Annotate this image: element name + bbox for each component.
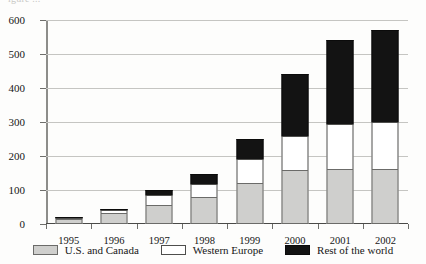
y-axis-label: 500 xyxy=(0,48,25,60)
gridline xyxy=(46,88,408,89)
bar-segment-western-europe xyxy=(372,122,399,169)
bar-segment-western-europe xyxy=(236,159,263,183)
x-axis-tick xyxy=(137,224,138,229)
x-axis-tick xyxy=(46,224,47,229)
bar-segment-u-s-and-canada xyxy=(55,219,82,224)
x-axis-tick xyxy=(272,224,273,229)
y-axis-label: 0 xyxy=(0,218,25,230)
bar-segment-western-europe xyxy=(281,136,308,170)
y-axis-label: 600 xyxy=(0,14,25,26)
bar-segment-western-europe xyxy=(146,195,173,205)
legend-item-western-europe: Western Europe xyxy=(161,244,263,256)
bar-segment-u-s-and-canada xyxy=(372,169,399,224)
gridline xyxy=(46,122,408,123)
bar-1996 xyxy=(100,209,127,224)
legend-item-rest-of-the-world: Rest of the world xyxy=(285,244,393,256)
legend-swatch-rest-of-the-world xyxy=(285,245,310,255)
y-axis-tick xyxy=(40,88,46,89)
y-axis-tick xyxy=(40,122,46,123)
x-axis-tick xyxy=(227,224,228,229)
x-axis-tick xyxy=(91,224,92,229)
bar-1998 xyxy=(191,174,218,224)
bar-segment-western-europe xyxy=(191,184,218,197)
bar-segment-rest-of-the-world xyxy=(236,139,263,159)
y-axis-tick xyxy=(40,54,46,55)
bar-segment-western-europe xyxy=(327,124,354,169)
x-axis-tick xyxy=(363,224,364,229)
legend-label-u-s-and-canada: U.S. and Canada xyxy=(65,244,139,256)
y-axis-label: 300 xyxy=(0,116,25,128)
x-axis-tick xyxy=(182,224,183,229)
chart-figure: igure ... 010020030040050060019951996199… xyxy=(0,0,426,264)
y-axis-tick xyxy=(40,156,46,157)
x-axis-tick xyxy=(318,224,319,229)
bar-segment-rest-of-the-world xyxy=(281,74,308,135)
cropped-caption: igure ... xyxy=(0,0,426,9)
bar-segment-u-s-and-canada xyxy=(100,213,127,224)
legend-item-u-s-and-canada: U.S. and Canada xyxy=(33,244,139,256)
y-axis-tick xyxy=(40,190,46,191)
bar-1999 xyxy=(236,139,263,224)
bar-1997 xyxy=(146,190,173,224)
legend-swatch-western-europe xyxy=(161,245,186,255)
bar-segment-rest-of-the-world xyxy=(191,174,218,184)
bar-segment-rest-of-the-world xyxy=(372,30,399,122)
cropped-caption-text: igure ... xyxy=(8,0,40,4)
bar-2000 xyxy=(281,74,308,224)
y-axis-label: 100 xyxy=(0,184,25,196)
legend-label-western-europe: Western Europe xyxy=(193,244,263,256)
gridline xyxy=(46,54,408,55)
gridline xyxy=(46,156,408,157)
legend-label-rest-of-the-world: Rest of the world xyxy=(317,244,393,256)
y-axis-tick xyxy=(40,20,46,21)
gridline xyxy=(46,20,408,21)
plot-area: 0100200300400500600199519961997199819992… xyxy=(46,20,408,224)
y-axis-label: 400 xyxy=(0,82,25,94)
bar-2002 xyxy=(372,30,399,224)
bar-segment-rest-of-the-world xyxy=(327,40,354,123)
bar-2001 xyxy=(327,40,354,224)
chart-legend: U.S. and CanadaWestern EuropeRest of the… xyxy=(0,244,426,256)
gridline xyxy=(46,190,408,191)
bar-1995 xyxy=(55,217,82,224)
bar-segment-u-s-and-canada xyxy=(146,205,173,224)
bar-segment-u-s-and-canada xyxy=(327,169,354,224)
bar-segment-u-s-and-canada xyxy=(236,183,263,224)
y-axis-label: 200 xyxy=(0,150,25,162)
legend-swatch-u-s-and-canada xyxy=(33,245,58,255)
bar-segment-u-s-and-canada xyxy=(191,197,218,224)
bar-segment-u-s-and-canada xyxy=(281,170,308,224)
x-axis-tick xyxy=(408,224,409,229)
